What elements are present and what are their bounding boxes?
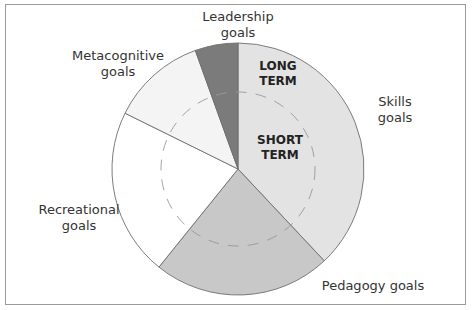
- goals-pie-chart: [0, 0, 472, 310]
- label-leadership-goals: Leadership goals: [178, 9, 298, 41]
- label-line: Leadership: [178, 9, 298, 25]
- label-line: TERM: [248, 74, 308, 89]
- label-line: Recreational: [24, 202, 134, 218]
- label-long-term: LONG TERM: [248, 59, 308, 89]
- label-line: SHORT: [248, 133, 312, 148]
- label-line: goals: [360, 110, 430, 126]
- label-line: Metacognitive: [58, 48, 178, 64]
- label-line: goals: [178, 25, 298, 41]
- label-short-term: SHORT TERM: [248, 133, 312, 163]
- label-line: goals: [58, 64, 178, 80]
- label-pedagogy-goals: Pedagogy goals: [308, 278, 438, 294]
- label-skills-goals: Skills goals: [360, 94, 430, 126]
- label-line: Skills: [360, 94, 430, 110]
- label-line: LONG: [248, 59, 308, 74]
- label-metacognitive-goals: Metacognitive goals: [58, 48, 178, 80]
- label-recreational-goals: Recreational goals: [24, 202, 134, 234]
- label-line: goals: [24, 218, 134, 234]
- label-line: TERM: [248, 148, 312, 163]
